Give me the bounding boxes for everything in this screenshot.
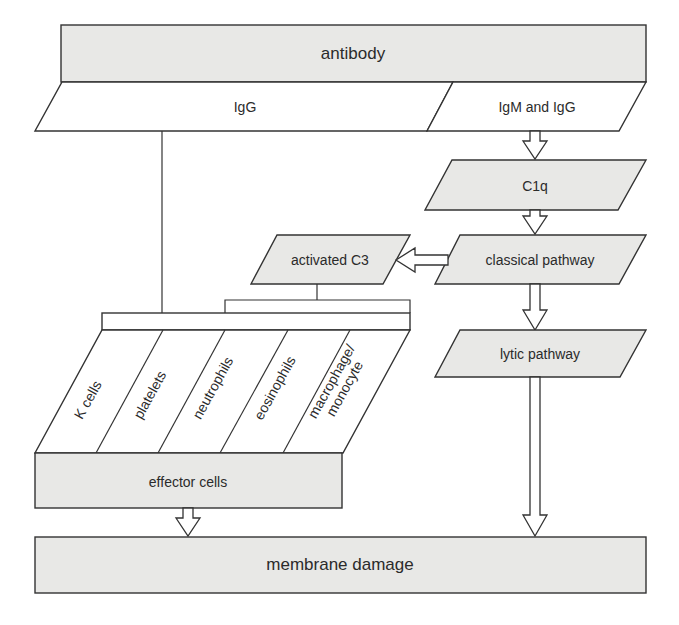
effector-cells-label: effector cells	[149, 475, 227, 490]
igm-igg-label: IgM and IgG	[498, 100, 575, 115]
arrow-c1q-to-classical	[523, 210, 547, 234]
arrow-effector-to-membrane	[176, 508, 200, 536]
c3-bracket	[225, 300, 410, 313]
arrow-classical-to-c3	[396, 248, 448, 272]
arrow-igm-to-c1q	[523, 131, 547, 159]
cells-bracket-band	[102, 313, 410, 330]
membrane-damage-label: membrane damage	[266, 556, 413, 574]
activated-c3-label: activated C3	[291, 253, 369, 268]
arrow-lytic-to-membrane	[523, 377, 547, 536]
lytic-pathway-label: lytic pathway	[500, 347, 580, 362]
arrow-classical-to-lytic	[523, 284, 547, 330]
diagram-canvas	[0, 0, 679, 625]
c1q-label: C1q	[522, 179, 548, 194]
classical-pathway-label: classical pathway	[486, 253, 595, 268]
antibody-label: antibody	[321, 45, 385, 63]
igg-label: IgG	[234, 100, 257, 115]
